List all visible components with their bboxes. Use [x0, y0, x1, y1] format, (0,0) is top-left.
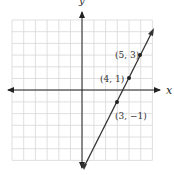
- point-label-3-neg1: (3, −1): [115, 111, 147, 121]
- y-axis-arrow-up-icon: [79, 11, 85, 18]
- point-label-4-1: (4, 1): [100, 74, 124, 84]
- point-3-neg1: [115, 100, 119, 104]
- point-4-1: [127, 76, 131, 80]
- x-axis-arrow-right-icon: [154, 87, 161, 93]
- coordinate-plane: x y (5, 3) (4, 1) (3, −1): [0, 0, 174, 175]
- x-axis-arrow-left-icon: [7, 87, 14, 93]
- y-axis-label: y: [78, 0, 85, 6]
- x-axis-label: x: [166, 84, 173, 97]
- point-label-5-3: (5, 3): [115, 50, 139, 60]
